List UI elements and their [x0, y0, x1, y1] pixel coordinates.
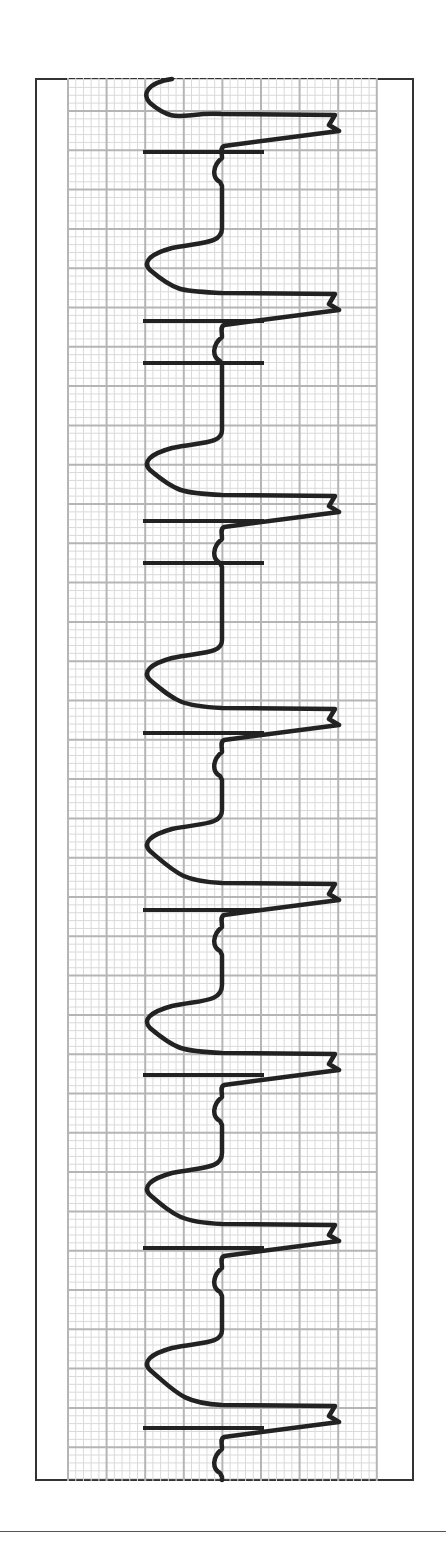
- page-divider: [0, 1531, 446, 1532]
- ecg-rhythm-strip: [0, 0, 446, 1542]
